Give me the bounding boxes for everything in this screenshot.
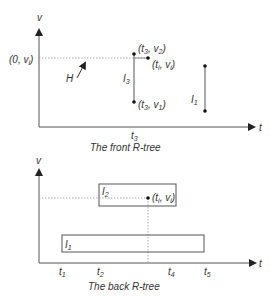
back-query-point-label: (ti, vi) [152,192,175,204]
back-x-axis-label: t [259,258,263,269]
box-i1 [62,235,204,252]
point-t3-v2 [132,52,136,56]
segment-i1-label: I1 [191,94,198,106]
back-caption: The back R-tree [88,281,160,292]
front-x-axis-label: t [259,122,263,133]
front-caption: The front R-tree [90,142,161,153]
segment-i3-label: I3 [123,73,130,85]
back-tick-t5: t5 [204,266,211,278]
front-origin-point-label: (0, vi) [9,54,33,66]
front-query-point-label: (ti, vi) [152,59,175,71]
front-query-point [146,56,150,60]
back-r-tree: v t I2 (ti, vi) I1 t1 t2 t4 t5 The back … [36,155,263,292]
bottom-point-label: (t3, v1) [138,99,166,111]
h-vector-arrow [77,63,85,78]
box-i1-label: I1 [65,239,72,251]
front-r-tree: v t (0, vi) H I3 (t3, v2) (ti, vi) (t3, … [9,12,263,153]
r-tree-diagram: v t (0, vi) H I3 (t3, v2) (ti, vi) (t3, … [0,0,275,299]
back-tick-t2: t2 [97,266,104,278]
i1-top-point [203,64,207,68]
back-tick-t1: t1 [59,266,66,278]
back-y-axis-label: v [36,155,42,166]
i1-bottom-point [203,109,207,113]
front-y-axis-label: v [37,12,43,23]
top-point-label: (t3, v2) [138,43,166,55]
box-i2-label: I2 [102,186,109,198]
point-t3-v1 [132,100,136,104]
back-tick-t4: t4 [168,266,175,278]
front-tick-t3: t3 [131,130,138,142]
h-vector-label: H [66,73,74,84]
back-query-point [146,196,150,200]
